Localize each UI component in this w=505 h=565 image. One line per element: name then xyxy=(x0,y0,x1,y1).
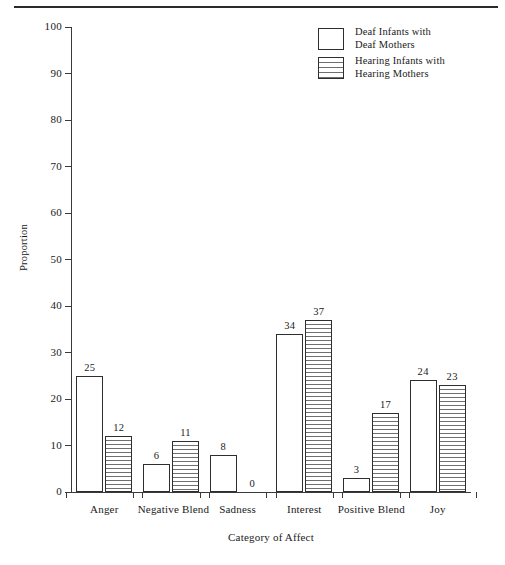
y-axis-tick-label: 30 xyxy=(18,347,62,358)
y-axis-title: Proportion xyxy=(18,208,29,288)
legend-label-line1: Hearing Infants with xyxy=(355,55,445,68)
bar xyxy=(305,320,332,492)
y-axis-tick-value: 70 xyxy=(22,161,62,172)
x-axis-category-label: Negative Blend xyxy=(138,503,205,516)
bar xyxy=(410,380,437,492)
bar-value-label: 34 xyxy=(268,320,311,331)
bar xyxy=(276,334,303,492)
x-axis-line xyxy=(71,492,471,493)
bar-value-label: 11 xyxy=(164,427,207,438)
x-axis-tick xyxy=(200,492,201,498)
y-axis-tick-label: 20 xyxy=(18,393,62,404)
legend-swatch xyxy=(318,57,344,79)
x-axis-tick xyxy=(276,492,277,498)
y-axis-line xyxy=(71,27,72,492)
bar xyxy=(143,464,170,492)
legend-label-line2: Deaf Mothers xyxy=(355,39,431,52)
y-axis-tick xyxy=(65,213,71,214)
x-axis-title: Category of Affect xyxy=(71,531,471,543)
legend-item: Deaf Infants withDeaf Mothers xyxy=(318,26,493,53)
legend-label-line2: Hearing Mothers xyxy=(355,68,445,81)
x-axis-tick xyxy=(342,492,343,498)
y-axis-tick-value: 0 xyxy=(22,486,62,497)
bar-value-label: 3 xyxy=(335,464,378,475)
bar-value-label: 23 xyxy=(431,371,474,382)
x-axis-tick xyxy=(476,492,477,498)
y-axis-tick xyxy=(65,27,71,28)
y-axis-tick-label: 100 xyxy=(18,21,62,32)
chart-legend: Deaf Infants withDeaf MothersHearing Inf… xyxy=(318,26,493,84)
bar-value-label: 0 xyxy=(231,478,274,489)
y-axis-tick-label: 90 xyxy=(18,68,62,79)
y-axis-tick-value: 100 xyxy=(22,21,62,32)
bar-value-label: 8 xyxy=(202,441,245,452)
bar-chart: 0102030405060708090100 Proportion 251261… xyxy=(0,0,505,565)
y-axis-tick-value: 90 xyxy=(22,68,62,79)
legend-item: Hearing Infants withHearing Mothers xyxy=(318,55,493,82)
x-axis-tick xyxy=(66,492,67,498)
y-axis-tick-label: 80 xyxy=(18,114,62,125)
y-axis-tick xyxy=(65,445,71,446)
bar-value-label: 25 xyxy=(68,362,111,373)
x-axis-tick xyxy=(333,492,334,498)
x-axis-category-label: Sadness xyxy=(204,503,271,516)
y-axis-tick xyxy=(65,166,71,167)
y-axis-tick xyxy=(65,399,71,400)
y-axis-tick-value: 30 xyxy=(22,347,62,358)
x-axis-tick xyxy=(266,492,267,498)
bar xyxy=(439,385,466,492)
legend-label-line1: Deaf Infants with xyxy=(355,26,431,39)
x-axis-tick xyxy=(209,492,210,498)
y-axis-tick xyxy=(65,259,71,260)
y-axis-tick xyxy=(65,120,71,121)
y-axis-tick-value: 10 xyxy=(22,440,62,451)
x-axis-tick xyxy=(133,492,134,498)
legend-label: Hearing Infants withHearing Mothers xyxy=(355,55,445,80)
bar-value-label: 17 xyxy=(364,399,407,410)
x-axis-category-label: Joy xyxy=(404,503,471,516)
x-axis-tick xyxy=(409,492,410,498)
bar xyxy=(76,376,103,492)
y-axis-tick-label: 70 xyxy=(18,161,62,172)
bar-value-label: 12 xyxy=(97,422,140,433)
y-axis-tick-label: 10 xyxy=(18,440,62,451)
legend-swatch xyxy=(318,28,344,50)
bar xyxy=(372,413,399,492)
bar xyxy=(172,441,199,492)
y-axis-tick-label: 0 xyxy=(18,486,62,497)
legend-label: Deaf Infants withDeaf Mothers xyxy=(355,26,431,51)
x-axis-category-label: Positive Blend xyxy=(338,503,405,516)
y-axis-tick-label: 40 xyxy=(18,300,62,311)
y-axis-tick xyxy=(65,73,71,74)
x-axis-category-label: Interest xyxy=(271,503,338,516)
y-axis-tick xyxy=(65,306,71,307)
x-axis-category-label: Anger xyxy=(71,503,138,516)
x-axis-tick xyxy=(400,492,401,498)
y-axis-tick xyxy=(65,352,71,353)
bar-value-label: 6 xyxy=(135,450,178,461)
y-axis-tick-value: 80 xyxy=(22,114,62,125)
y-axis-tick-value: 20 xyxy=(22,393,62,404)
x-axis-tick xyxy=(142,492,143,498)
bar xyxy=(343,478,370,492)
bar-value-label: 37 xyxy=(297,306,340,317)
y-axis-tick-value: 40 xyxy=(22,300,62,311)
bar xyxy=(105,436,132,492)
